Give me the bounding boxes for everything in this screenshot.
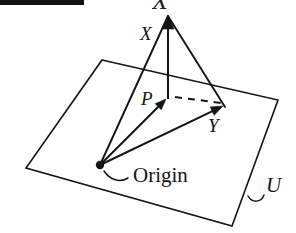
origin-point-dot [96, 161, 104, 169]
label-origin: Origin [133, 163, 188, 187]
segment-origin-to-apex [100, 16, 168, 165]
leader-line-origin [104, 171, 128, 180]
plane-u-outline [26, 60, 278, 226]
dashed-segment-p-to-y [175, 97, 221, 103]
segment-apex-to-y [168, 16, 225, 107]
label-p: P [140, 88, 153, 109]
vector-origin-to-p [100, 106, 159, 165]
label-u: U [266, 173, 283, 197]
label-y: Y [208, 115, 221, 136]
projection-diagram-svg: X P Y Origin U [0, 0, 296, 233]
leader-line-u [248, 195, 264, 201]
arrowhead-y [210, 106, 223, 115]
figure-canvas: X X P Y Origin U [0, 0, 296, 233]
label-x: X [139, 23, 153, 44]
vector-origin-to-y [100, 111, 214, 165]
